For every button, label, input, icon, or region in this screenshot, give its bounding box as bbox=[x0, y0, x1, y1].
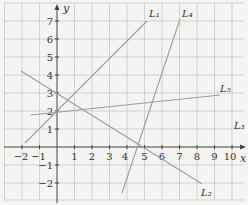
label-L5: L₅ bbox=[219, 83, 231, 94]
x-tick: 1 bbox=[71, 151, 77, 162]
y-tick: 3 bbox=[47, 88, 53, 99]
y-tick-labels: 7 6 5 4 3 2 1 −1 −2 bbox=[38, 16, 53, 189]
x-tick: 10 bbox=[224, 151, 237, 162]
line-L5 bbox=[31, 95, 220, 115]
x-axis-label: x bbox=[240, 152, 247, 165]
x-axis-arrow-icon bbox=[240, 145, 246, 150]
x-tick: 4 bbox=[122, 151, 128, 162]
y-tick: −1 bbox=[38, 160, 53, 171]
coordinate-plane: −2 −1 1 2 3 4 5 6 7 8 9 10 x 7 6 5 4 3 2… bbox=[0, 0, 248, 205]
x-tick: −2 bbox=[14, 151, 29, 162]
y-tick: 1 bbox=[47, 124, 53, 135]
x-tick: 3 bbox=[106, 151, 112, 162]
label-L2: L₂ bbox=[200, 187, 212, 198]
y-tick: −2 bbox=[38, 178, 53, 189]
line-labels: L₁ L₄ L₅ L₃ L₂ bbox=[148, 8, 245, 198]
x-tick: 2 bbox=[89, 151, 95, 162]
y-tick: 6 bbox=[47, 34, 53, 45]
y-tick: 5 bbox=[47, 52, 53, 63]
y-axis-arrow-icon bbox=[55, 4, 60, 10]
y-axis-label: y bbox=[62, 2, 70, 15]
label-L1: L₁ bbox=[148, 8, 160, 19]
x-tick: 9 bbox=[211, 151, 217, 162]
line-L4 bbox=[122, 19, 180, 193]
x-tick: 5 bbox=[141, 151, 147, 162]
x-tick: 8 bbox=[194, 151, 200, 162]
label-L3: L₃ bbox=[233, 120, 245, 131]
x-tick: 7 bbox=[176, 151, 182, 162]
y-tick: 7 bbox=[47, 16, 53, 27]
label-L4: L₄ bbox=[181, 8, 193, 19]
y-tick: 4 bbox=[47, 70, 53, 81]
